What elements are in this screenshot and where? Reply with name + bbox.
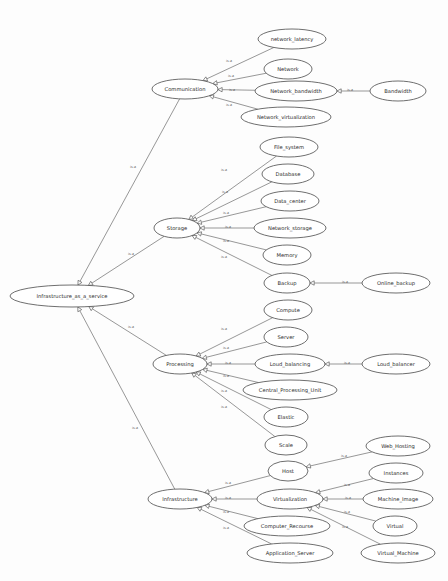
node-label: Network_storage [268,225,312,232]
edge-host-to-infra [209,476,271,492]
edge-backup-to-storage [196,237,272,275]
node-netstor[interactable]: Network_storage [254,218,326,238]
edge-arrowhead-icon [196,352,201,356]
node-cpu[interactable]: Central_Processing_Unit [243,380,337,400]
node-label: Application_Server [266,550,315,557]
ontology-diagram: is-ais-ais-ais-ais-ais-ais-ais-ais-ais-a… [0,0,448,581]
node-mimg[interactable]: Machine_Image [363,489,433,509]
node-bw[interactable]: Bandwidth [370,81,426,101]
node-dc[interactable]: Data_center [261,191,319,211]
node-scale[interactable]: Scale [265,435,307,455]
node-server[interactable]: Server [264,327,308,347]
edge-label-bw-netbw: is-a [347,88,353,92]
node-proc[interactable]: Processing [153,354,207,374]
node-label: Elastic [278,414,295,420]
node-label: Computer_Recourse [261,523,313,530]
node-appsrv[interactable]: Application_Server [247,543,333,563]
node-label: Web_Hosting [381,443,415,450]
node-webhost[interactable]: Web_Hosting [366,436,430,456]
node-loudbal[interactable]: Loud_balancing [255,354,325,374]
edge-dc-to-storage [201,207,266,223]
edge-netvirt-to-comm [213,97,257,109]
node-label: Communication [165,86,206,92]
node-comm[interactable]: Communication [152,79,218,99]
node-onbk[interactable]: Online_backup [362,273,430,293]
node-label: Virtual [387,523,404,529]
edge-arrowhead-icon [325,362,329,366]
edge-db-to-storage [196,182,272,219]
edge-arrowhead-icon [323,497,327,501]
edge-label-webhost-host: is-a [341,454,347,458]
edge-arrowhead-icon [78,307,82,312]
node-storage[interactable]: Storage [154,218,200,238]
node-label: Memory [276,252,297,259]
node-label: Bandwidth [384,88,412,94]
node-label: Data_center [274,198,307,205]
edge-fs-to-storage [192,156,276,217]
edge-arrowhead-icon [192,373,197,377]
node-label: Virtual_Machine [377,550,418,557]
edge-label-db-storage: is-a [222,190,228,194]
node-vm[interactable]: Virtual_Machine [361,543,435,563]
edge-arrowhead-icon [89,307,94,311]
node-host[interactable]: Host [268,461,308,481]
node-infra[interactable]: Infrastructure [148,489,212,509]
node-label: File_system [274,144,304,151]
node-virtual[interactable]: Virtual [373,516,417,536]
node-netvirt[interactable]: Network_virtualization [241,107,331,127]
edge-label-backup-storage: is-a [221,255,227,259]
node-backup[interactable]: Backup [264,273,310,293]
edge-label-loudbal-proc: is-a [225,361,231,365]
edge-label-storage-iaas: is-a [128,252,134,256]
node-label: Backup [277,280,297,287]
node-fs[interactable]: File_system [260,137,318,157]
node-mem[interactable]: Memory [263,245,311,265]
edge-cpu-to-proc [207,370,259,382]
edge-arrowhead-icon [212,497,216,501]
edge-netbw-to-comm [222,90,255,91]
edge-proc-to-iaas [92,309,166,356]
edge-infra-to-iaas [80,311,175,489]
node-cres[interactable]: Computer_Recourse [244,516,330,536]
edge-netlat-to-comm [207,47,274,78]
node-layer: Infrastructure_as_a_serviceCommunication… [10,29,435,563]
node-label: Database [276,171,301,177]
edge-label-cpu-proc: is-a [223,374,229,378]
edge-label-netlat-comm: is-a [226,59,232,63]
edge-arrowhead-icon [307,507,312,511]
node-compute[interactable]: Compute [264,300,312,320]
edge-server-to-proc [206,342,266,357]
node-label: Instances [384,470,409,476]
node-label: Scale [279,442,293,448]
node-label: Loud_balancing [270,361,310,368]
edge-label-virtual-virt: is-a [344,510,350,514]
node-label: network_latency [271,36,314,43]
edge-label-mimg-virt: is-a [345,496,351,500]
edge-label-server-proc: is-a [223,346,229,350]
node-loudbr[interactable]: Loud_balancer [362,354,430,374]
node-inst[interactable]: Instances [369,463,423,483]
node-label: Infrastructure_as_a_service [37,293,108,300]
edge-arrowhead-icon [310,281,314,285]
node-label: Machine_Image [378,496,419,503]
node-label: Infrastructure [162,496,198,502]
edge-label-host-infra: is-a [225,481,231,485]
node-net[interactable]: Network [264,59,312,79]
edge-label-vm-virt: is-a [342,525,348,529]
node-iaas[interactable]: Infrastructure_as_a_service [10,285,134,307]
node-netlat[interactable]: network_latency [258,29,326,49]
edge-arrowhead-icon [192,235,197,239]
edge-label-cres-infra: is-a [223,510,229,514]
node-virt[interactable]: Virtualization [257,489,323,509]
edge-label-elastic-proc: is-a [221,389,227,393]
node-elastic[interactable]: Elastic [264,407,308,427]
edge-label-scale-proc: is-a [221,405,227,409]
edge-label-onbk-backup: is-a [342,280,348,284]
node-db[interactable]: Database [262,164,314,184]
edge-label-netbw-comm: is-a [229,88,235,92]
node-label: Storage [167,225,187,232]
edge-arrowhead-icon [189,215,194,219]
edge-label-infra-iaas: is-a [132,426,138,430]
node-netbw[interactable]: Network_bandwidth [255,81,337,101]
edge-arrowhead-icon [203,77,208,81]
